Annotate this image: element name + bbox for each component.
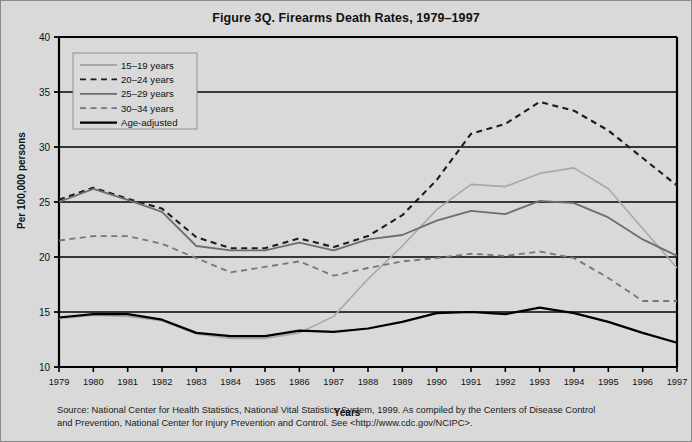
x-axis-tick-label: 1995 bbox=[598, 377, 619, 387]
figure-panel: Figure 3Q. Firearms Death Rates, 1979–19… bbox=[0, 0, 692, 442]
x-axis-tick-label: 1986 bbox=[289, 377, 310, 387]
x-axis-tick-label: 1982 bbox=[152, 377, 173, 387]
y-axis-tick-label: 20 bbox=[39, 252, 51, 263]
legend-label: 25–29 years bbox=[121, 88, 174, 99]
source-note-line-2: and Prevention, National Center for Inju… bbox=[57, 417, 663, 430]
x-axis-tick-label: 1993 bbox=[529, 377, 550, 387]
x-axis-tick-label: 1985 bbox=[255, 377, 276, 387]
source-note: Source: National Center for Health Stati… bbox=[57, 404, 663, 429]
y-axis-tick-label: 15 bbox=[39, 307, 51, 318]
x-axis-tick-label: 1988 bbox=[358, 377, 379, 387]
legend-label: 20–24 years bbox=[121, 74, 174, 85]
x-axis-tick-label: 1990 bbox=[426, 377, 447, 387]
source-note-line-1: Source: National Center for Health Stati… bbox=[57, 404, 663, 417]
y-axis-tick-label: 35 bbox=[39, 87, 51, 98]
figure-title: Figure 3Q. Firearms Death Rates, 1979–19… bbox=[1, 11, 691, 25]
x-axis-tick-label: 1989 bbox=[392, 377, 413, 387]
series-line bbox=[59, 168, 677, 339]
series-line bbox=[59, 308, 677, 343]
line-chart: 1015202530354019791980198119821983198419… bbox=[1, 25, 692, 397]
legend-label: Age-adjusted bbox=[121, 117, 178, 128]
y-axis-tick-label: 25 bbox=[39, 197, 51, 208]
x-axis-tick-label: 1991 bbox=[461, 377, 482, 387]
x-axis-tick-label: 1996 bbox=[632, 377, 653, 387]
x-axis-tick-label: 1979 bbox=[49, 377, 70, 387]
x-axis-tick-label: 1984 bbox=[220, 377, 241, 387]
series-line bbox=[59, 189, 677, 256]
legend-label: 30–34 years bbox=[121, 103, 174, 114]
x-axis-tick-label: 1987 bbox=[323, 377, 344, 387]
x-axis-tick-label: 1992 bbox=[495, 377, 516, 387]
series-line bbox=[59, 236, 677, 301]
x-axis-tick-label: 1981 bbox=[117, 377, 138, 387]
y-axis-tick-label: 10 bbox=[39, 362, 51, 373]
x-axis-tick-label: 1983 bbox=[186, 377, 207, 387]
x-axis-tick-label: 1994 bbox=[564, 377, 585, 387]
y-axis-tick-label: 30 bbox=[39, 142, 51, 153]
x-axis-tick-label: 1980 bbox=[83, 377, 104, 387]
y-axis-tick-label: 40 bbox=[39, 32, 51, 43]
legend-label: 15–19 years bbox=[121, 60, 174, 71]
chart-plot-area: Per 100,000 persons Years 10152025303540… bbox=[1, 25, 692, 397]
x-axis-tick-label: 1997 bbox=[667, 377, 688, 387]
y-axis-title: Per 100,000 persons bbox=[16, 91, 27, 271]
